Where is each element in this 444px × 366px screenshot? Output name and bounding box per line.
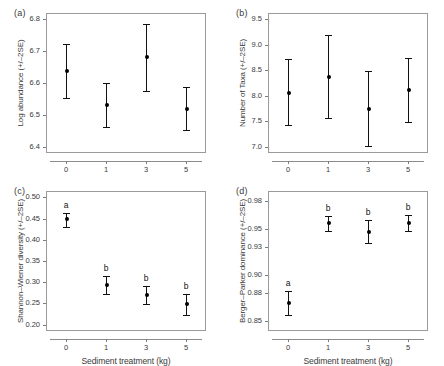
y-tick-mark [265,293,268,294]
data-point [407,221,411,225]
x-tick-mark [368,339,369,342]
y-tick-mark [265,321,268,322]
y-tick-mark [265,247,268,248]
y-tick-label: 0.98 [234,196,262,205]
error-bar-cap-lower [365,243,372,244]
significance-letter: b [318,203,338,213]
y-tick-mark [265,229,268,230]
error-bar-cap-lower [405,231,412,232]
y-tick-label: 0.90 [234,270,262,279]
x-tick-label: 3 [358,343,378,352]
error-bar-cap-upper [405,215,412,216]
x-tick-mark [408,339,409,342]
error-bar-cap-upper [325,216,332,217]
plot-area [268,191,428,331]
x-axis-line [272,339,424,340]
y-tick-mark [265,201,268,202]
y-axis-label: Berger–Parker dominance (+/–2SE) [238,191,247,331]
significance-letter: a [278,278,298,288]
significance-letter: b [398,202,418,212]
y-tick-label: 0.85 [234,316,262,325]
error-bar-cap-lower [325,231,332,232]
y-tick-label: 0.93 [234,242,262,251]
x-tick-mark [328,339,329,342]
data-point [287,301,291,305]
x-tick-mark [288,339,289,342]
error-bar-cap-upper [285,291,292,292]
y-tick-mark [265,275,268,276]
data-point [367,230,371,234]
y-tick-label: 0.95 [234,224,262,233]
x-tick-label: 0 [278,343,298,352]
x-axis-label: Sediment treatment (kg) [268,356,428,366]
x-tick-label: 1 [318,343,338,352]
y-tick-label: 0.88 [234,288,262,297]
error-bar-cap-upper [365,220,372,221]
significance-letter: b [358,207,378,217]
error-bar-cap-lower [285,315,292,316]
x-tick-label: 5 [398,343,418,352]
